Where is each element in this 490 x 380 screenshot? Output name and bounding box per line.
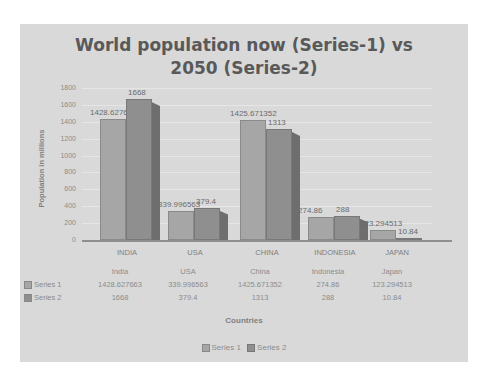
- y-tick-label: 600: [40, 185, 76, 192]
- y-tick-label: 1800: [40, 84, 76, 91]
- data-label: 288: [336, 205, 349, 214]
- chart-area: World population now (Series-1) vs 2050 …: [20, 24, 468, 362]
- legend-item-series-1: Series 1: [202, 343, 241, 352]
- legend-swatch-icon: [247, 344, 255, 352]
- bar-series-1-indonesia: [308, 217, 334, 240]
- table-cell: 10.84: [352, 293, 432, 302]
- x-category-label: JAPAN: [362, 248, 432, 257]
- data-label: 274.86: [298, 206, 322, 215]
- y-tick-label: 800: [40, 168, 76, 175]
- bar-side: [152, 102, 160, 240]
- bar-series-2-indonesia: [334, 216, 360, 240]
- legend-key-icon: [24, 294, 32, 302]
- bar-series-1-japan: [370, 230, 396, 240]
- legend-swatch-icon: [202, 344, 210, 352]
- y-tick-label: 1400: [40, 118, 76, 125]
- bar-series-2-india: [126, 99, 152, 240]
- y-tick-label: 1200: [40, 135, 76, 142]
- bar-side: [292, 132, 300, 240]
- x-category-label: USA: [160, 248, 230, 257]
- row-header: Series 2: [24, 293, 74, 302]
- x-axis-line: [82, 240, 452, 242]
- y-tick-label: 1600: [40, 101, 76, 108]
- table-cell: USA: [148, 267, 228, 276]
- data-label: 1313: [268, 118, 286, 127]
- title-line-1: World population now (Series-1) vs: [20, 34, 468, 57]
- y-tick-label: 1000: [40, 152, 76, 159]
- legend-item-series-2: Series 2: [247, 343, 286, 352]
- row-header: Series 1: [24, 280, 74, 289]
- table-cell: 379.4: [148, 293, 228, 302]
- bar-series-1-china: [240, 120, 266, 240]
- data-label: 1425.671352: [230, 109, 277, 118]
- bar-series-2-japan: [396, 238, 422, 240]
- bar-series-1-usa: [168, 211, 194, 240]
- y-tick-label: 400: [40, 202, 76, 209]
- x-category-label: INDIA: [92, 248, 162, 257]
- x-axis-label: Countries: [20, 316, 468, 325]
- bar-series-2-usa: [194, 208, 220, 240]
- table-cell: Japan: [352, 267, 432, 276]
- x-category-label: INDONESIA: [300, 248, 370, 257]
- y-tick-label: 0: [40, 236, 76, 243]
- y-tick-label: 200: [40, 219, 76, 226]
- legend-key-icon: [24, 281, 32, 289]
- title-line-2: 2050 (Series-2): [20, 57, 468, 80]
- bar-series-2-china: [266, 129, 292, 240]
- data-label: 1668: [128, 88, 146, 97]
- table-cell: 339.996563: [148, 280, 228, 289]
- data-label: 379.4: [196, 197, 216, 206]
- bar-side: [220, 211, 228, 240]
- table-cell: 123.294513: [352, 280, 432, 289]
- legend: Series 1 Series 2: [20, 343, 468, 352]
- data-label: 10.84: [398, 227, 418, 236]
- x-category-label: CHINA: [232, 248, 302, 257]
- data-label: 123.294513: [360, 219, 402, 228]
- bar-series-1-india: [100, 119, 126, 240]
- chart-title: World population now (Series-1) vs 2050 …: [20, 34, 468, 80]
